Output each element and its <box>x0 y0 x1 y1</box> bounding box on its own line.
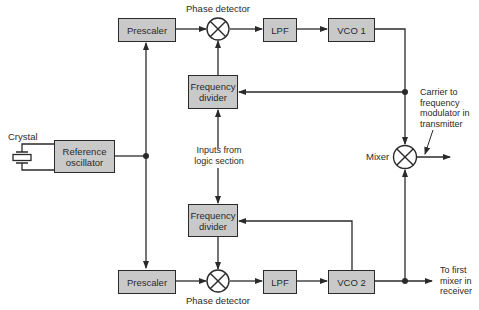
receiver-output-label: To first mixer in receiver <box>440 265 472 297</box>
reference-oscillator-block: Reference oscillator <box>54 140 115 173</box>
mixer-icon <box>394 146 417 169</box>
lpf-top-block: LPF <box>263 18 297 42</box>
phase-detector-bottom-label: Phase detector <box>186 295 250 306</box>
frequency-divider-bottom-label: Frequency divider <box>191 210 236 232</box>
reference-junction-dot <box>143 153 149 159</box>
frequency-divider-top-label: Frequency divider <box>191 81 236 103</box>
crystal-bottom-wire <box>22 163 54 170</box>
vco2-feedback-line <box>239 221 352 270</box>
lpf-bottom-block: LPF <box>263 270 297 294</box>
mixer-label: Mixer <box>366 151 389 162</box>
lpf-bottom-label: LPF <box>271 277 288 288</box>
phase-detector-bottom-icon <box>207 270 229 292</box>
logic-inputs-label: Inputs from logic section <box>190 145 248 166</box>
phase-detector-top-label: Phase detector <box>186 3 250 14</box>
carrier-pointer-line <box>425 130 433 154</box>
vco1-junction-dot <box>402 89 408 95</box>
frequency-divider-bottom-block: Frequency divider <box>188 204 238 237</box>
dual-pll-synthesizer-diagram: Prescaler Phase detector LPF VCO 1 Frequ… <box>0 0 479 310</box>
vco1-label: VCO 1 <box>337 25 366 36</box>
crystal-top-wire <box>22 144 54 152</box>
vco1-to-mixer-line <box>375 29 405 144</box>
frequency-divider-top-block: Frequency divider <box>188 75 238 109</box>
vco2-junction-dot <box>402 278 408 284</box>
prescaler-bottom-block: Prescaler <box>118 270 176 294</box>
reference-oscillator-label: Reference oscillator <box>63 146 107 168</box>
carrier-output-label: Carrier to frequency modulator in transm… <box>420 87 470 129</box>
crystal-icon <box>13 155 31 161</box>
vco1-block: VCO 1 <box>328 18 375 42</box>
prescaler-top-block: Prescaler <box>118 18 176 42</box>
phase-detector-top-icon <box>207 18 229 40</box>
prescaler-bottom-label: Prescaler <box>127 277 167 288</box>
vco2-block: VCO 2 <box>328 270 375 294</box>
lpf-top-label: LPF <box>271 25 288 36</box>
vco2-label: VCO 2 <box>337 277 366 288</box>
crystal-label: Crystal <box>8 131 38 142</box>
prescaler-top-label: Prescaler <box>127 25 167 36</box>
